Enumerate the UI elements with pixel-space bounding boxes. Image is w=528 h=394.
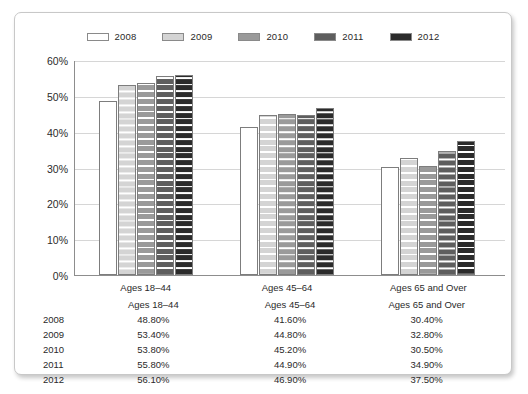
bar[interactable] (156, 76, 174, 275)
legend-item[interactable]: 2010 (238, 31, 288, 42)
legend-item[interactable]: 2012 (390, 31, 440, 42)
table-cell-value: 44.80% (222, 329, 359, 340)
data-table: Ages 18–44 Ages 45–64 Ages 65 and Over 2… (33, 297, 495, 387)
table-cell-value: 53.80% (85, 344, 222, 355)
y-axis-tick-label: 40% (47, 127, 68, 139)
bar[interactable] (297, 115, 315, 275)
bar[interactable] (99, 101, 117, 275)
gridline: 0% (75, 276, 505, 277)
bar[interactable] (240, 127, 258, 275)
table-body: 200848.80%41.60%30.40%200953.40%44.80%32… (33, 312, 495, 387)
table-row: 200953.40%44.80%32.80% (33, 327, 495, 342)
plot-area: 60%50%40%30%20%10%0% Ages 18–44Ages 45–6… (74, 61, 499, 276)
table-cell-value: 30.50% (358, 344, 495, 355)
bar[interactable] (118, 85, 136, 275)
bar[interactable] (175, 75, 193, 275)
legend-swatch-icon (238, 33, 260, 41)
table-row: 201256.10%46.90%37.50% (33, 372, 495, 387)
bar-group: Ages 45–64 (216, 61, 357, 275)
legend-item[interactable]: 2008 (87, 31, 137, 42)
bar[interactable] (419, 166, 437, 275)
legend-swatch-icon (162, 33, 184, 41)
bar-group: Ages 65 and Over (358, 61, 499, 275)
legend-item[interactable]: 2011 (314, 31, 363, 42)
column-header: Ages 65 and Over (358, 299, 495, 310)
table-row: 201053.80%45.20%30.50% (33, 342, 495, 357)
legend-item[interactable]: 2009 (162, 31, 212, 42)
bar[interactable] (259, 115, 277, 275)
table-cell-value: 34.90% (358, 359, 495, 370)
bar[interactable] (137, 83, 155, 275)
bar-groups: Ages 18–44Ages 45–64Ages 65 and Over (75, 61, 499, 275)
legend-swatch-icon (314, 33, 336, 41)
column-header: Ages 45–64 (222, 299, 359, 310)
y-axis-tick-label: 50% (47, 91, 68, 103)
table-cell-value: 37.50% (358, 374, 495, 385)
legend-swatch-icon (390, 33, 412, 41)
table-cell-value: 55.80% (85, 359, 222, 370)
bar[interactable] (316, 108, 334, 275)
chart-legend: 20082009201020112012 (15, 31, 511, 42)
bar[interactable] (457, 141, 475, 275)
x-axis-category-label: Ages 18–44 (75, 282, 216, 293)
bar[interactable] (278, 114, 296, 275)
legend-label: 2011 (342, 31, 363, 42)
table-cell-value: 48.80% (85, 314, 222, 325)
chart-card: 20082009201020112012 60%50%40%30%20%10%0… (14, 12, 512, 375)
table-cell-value: 56.10% (85, 374, 222, 385)
legend-label: 2012 (418, 31, 440, 42)
bar[interactable] (381, 167, 399, 275)
table-cell-year: 2010 (33, 344, 85, 355)
table-cell-value: 53.40% (85, 329, 222, 340)
column-header: Ages 18–44 (85, 299, 222, 310)
table-cell-year: 2011 (33, 359, 85, 370)
legend-label: 2009 (190, 31, 212, 42)
y-axis-tick-label: 0% (53, 270, 68, 282)
bar-group: Ages 18–44 (75, 61, 216, 275)
table-cell-value: 44.90% (222, 359, 359, 370)
bar[interactable] (438, 151, 456, 275)
table-header-row: Ages 18–44 Ages 45–64 Ages 65 and Over (33, 297, 495, 312)
table-cell-year: 2012 (33, 374, 85, 385)
y-axis-tick-label: 10% (47, 234, 68, 246)
legend-label: 2010 (266, 31, 288, 42)
table-cell-value: 46.90% (222, 374, 359, 385)
table-cell-value: 41.60% (222, 314, 359, 325)
table-row: 201155.80%44.90%34.90% (33, 357, 495, 372)
y-axis-tick-label: 60% (47, 55, 68, 67)
y-axis-tick-label: 20% (47, 198, 68, 210)
bar[interactable] (400, 158, 418, 275)
legend-swatch-icon (87, 33, 109, 41)
x-axis-category-label: Ages 65 and Over (358, 282, 499, 293)
table-cell-value: 32.80% (358, 329, 495, 340)
x-axis-category-label: Ages 45–64 (216, 282, 357, 293)
table-cell-year: 2008 (33, 314, 85, 325)
table-row: 200848.80%41.60%30.40% (33, 312, 495, 327)
table-cell-year: 2009 (33, 329, 85, 340)
y-axis-tick-label: 30% (47, 163, 68, 175)
legend-label: 2008 (115, 31, 137, 42)
table-cell-value: 30.40% (358, 314, 495, 325)
table-cell-value: 45.20% (222, 344, 359, 355)
